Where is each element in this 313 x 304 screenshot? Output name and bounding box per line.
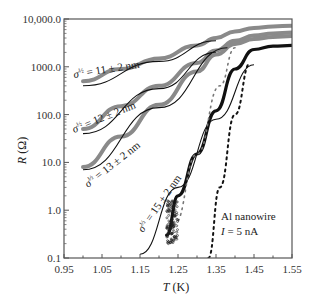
x-tick-label: 1.45 — [244, 263, 264, 275]
x-tick-label: 1.05 — [92, 263, 112, 275]
y-tick-label: 10.0 — [42, 156, 62, 168]
y-tick-label: 1.0 — [47, 204, 61, 216]
sigma-annotation-1: σ½ = 11 ± 2 nm — [72, 58, 140, 80]
x-axis-title: T (K) — [163, 280, 189, 294]
y-tick-label: 100.0 — [36, 109, 61, 121]
x-tick-label: 0.95 — [54, 263, 74, 275]
x-tick-label: 1.55 — [282, 263, 302, 275]
sample-label: Al nanowire — [221, 210, 276, 222]
y-tick-label: 10,000.0 — [23, 13, 62, 25]
x-tick-label: 1.25 — [168, 263, 188, 275]
chart: 0.951.051.151.251.351.451.550.11.010.010… — [0, 0, 313, 304]
y-tick-label: 1000.0 — [31, 61, 62, 73]
current-label: I = 5 nA — [220, 225, 258, 237]
series-sigma_13-data — [83, 36, 292, 167]
y-axis-title: R (Ω) — [15, 137, 29, 165]
sigma-15-noise-cluster — [166, 200, 179, 245]
x-tick-label: 1.15 — [130, 263, 150, 275]
x-tick-label: 1.35 — [206, 263, 226, 275]
y-tick-label: 0.1 — [47, 252, 61, 264]
